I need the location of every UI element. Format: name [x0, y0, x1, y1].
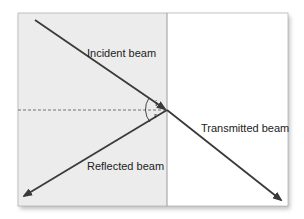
transmitted-beam-label: Transmitted beam	[201, 122, 289, 134]
medium-left	[18, 13, 167, 206]
reflected-beam-label: Reflected beam	[87, 160, 164, 172]
refraction-diagram: i r Incident beam Reflected beam Transmi…	[0, 0, 304, 219]
incident-beam-label: Incident beam	[87, 47, 156, 59]
angle-r-label: r	[154, 110, 157, 120]
medium-right	[167, 13, 288, 206]
